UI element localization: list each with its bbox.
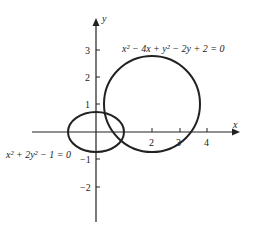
x-tick-4: 4 (204, 137, 209, 148)
x-tick-3: 3 (176, 137, 181, 148)
y-tick-1: 1 (85, 99, 90, 110)
y-axis-label: y (101, 13, 107, 24)
ticks (96, 50, 207, 187)
ellipse-equation-label: x² + 2y² − 1 = 0 (5, 149, 71, 160)
circle-equation-label: x² − 4x + y² − 2y + 2 = 0 (121, 43, 225, 54)
y-axis-arrow-icon (93, 18, 100, 26)
y-tick-3: 3 (85, 45, 90, 56)
diagram: y x 2 3 4 3 2 1 −1 −2 x² − 4x + y² − 2y … (0, 0, 254, 233)
y-tick-neg2: −2 (80, 182, 91, 193)
y-tick-neg1: −1 (80, 154, 91, 165)
x-axis-label: x (232, 119, 238, 130)
y-tick-2: 2 (85, 72, 90, 83)
x-tick-2: 2 (149, 137, 154, 148)
